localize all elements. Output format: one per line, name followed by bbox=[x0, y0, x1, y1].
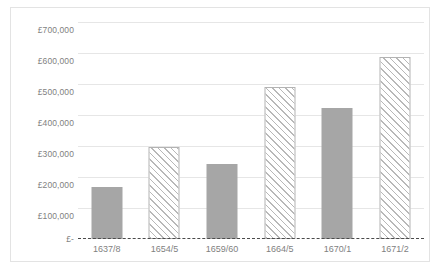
y-tick-label-700000: £700,000 bbox=[12, 26, 74, 35]
y-tick-label-100000: £100,000 bbox=[12, 212, 74, 221]
bar-slot-1637-8 bbox=[78, 15, 136, 239]
x-tick-label-1637-8: 1637/8 bbox=[78, 243, 136, 255]
plot-area bbox=[78, 15, 424, 239]
x-axis: 1637/8 1654/5 1659/60 1664/5 1670/1 1671… bbox=[78, 243, 424, 259]
y-tick-label-200000: £200,000 bbox=[12, 181, 74, 190]
bar-1659-60[interactable] bbox=[207, 164, 238, 239]
bar-slot-1659-60 bbox=[193, 15, 251, 239]
bar-slot-1671-2 bbox=[366, 15, 424, 239]
bar-1671-2[interactable] bbox=[380, 57, 411, 239]
zero-axis-line bbox=[78, 238, 424, 239]
bar-slot-1670-1 bbox=[309, 15, 367, 239]
y-tick-label-300000: £300,000 bbox=[12, 150, 74, 159]
x-tick-label-1664-5: 1664/5 bbox=[251, 243, 309, 255]
bar-slot-1664-5 bbox=[251, 15, 309, 239]
bar-1670-1[interactable] bbox=[322, 108, 353, 239]
x-tick-label-1671-2: 1671/2 bbox=[366, 243, 424, 255]
bar-1637-8[interactable] bbox=[91, 187, 122, 239]
bar-slot-1654-5 bbox=[136, 15, 194, 239]
y-tick-label-500000: £500,000 bbox=[12, 88, 74, 97]
bar-chart: £700,000 £600,000 £500,000 £400,000 £300… bbox=[0, 0, 442, 274]
x-tick-label-1654-5: 1654/5 bbox=[136, 243, 194, 255]
bars-layer bbox=[78, 15, 424, 239]
y-axis: £700,000 £600,000 £500,000 £400,000 £300… bbox=[12, 8, 74, 261]
bar-1664-5[interactable] bbox=[264, 87, 295, 239]
x-tick-label-1670-1: 1670/1 bbox=[309, 243, 367, 255]
y-tick-label-zero: £- bbox=[12, 235, 74, 244]
y-tick-label-600000: £600,000 bbox=[12, 57, 74, 66]
y-tick-label-400000: £400,000 bbox=[12, 119, 74, 128]
bar-1654-5[interactable] bbox=[149, 147, 180, 239]
x-tick-label-1659-60: 1659/60 bbox=[193, 243, 251, 255]
